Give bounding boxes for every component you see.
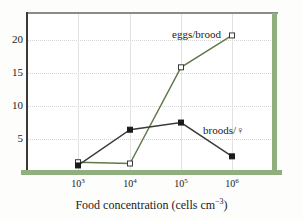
chart-series-layer [0,0,303,220]
series-line-1 [78,123,232,166]
data-point-marker [76,163,81,168]
data-point-marker [179,65,184,70]
chart-figure: 20 15 10 5 103 104 105 106 Food concentr… [0,0,303,220]
data-point-marker [230,154,235,159]
data-point-marker [179,120,184,125]
data-point-marker [230,33,235,38]
data-point-marker [128,127,133,132]
data-point-marker [128,161,133,166]
series-line-0 [78,35,232,163]
